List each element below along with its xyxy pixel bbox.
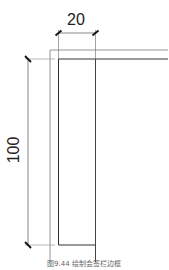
height-dimension: 100 — [5, 56, 55, 248]
countersign-bar-border — [59, 59, 169, 262]
height-label: 100 — [5, 137, 22, 164]
width-dimension: 20 — [56, 11, 99, 59]
drawing-canvas: 20 100 — [0, 0, 168, 270]
width-label: 20 — [67, 11, 85, 28]
figure-caption: 图9.44 绘制会签栏边框 — [0, 258, 168, 268]
outer-frame — [50, 50, 168, 262]
